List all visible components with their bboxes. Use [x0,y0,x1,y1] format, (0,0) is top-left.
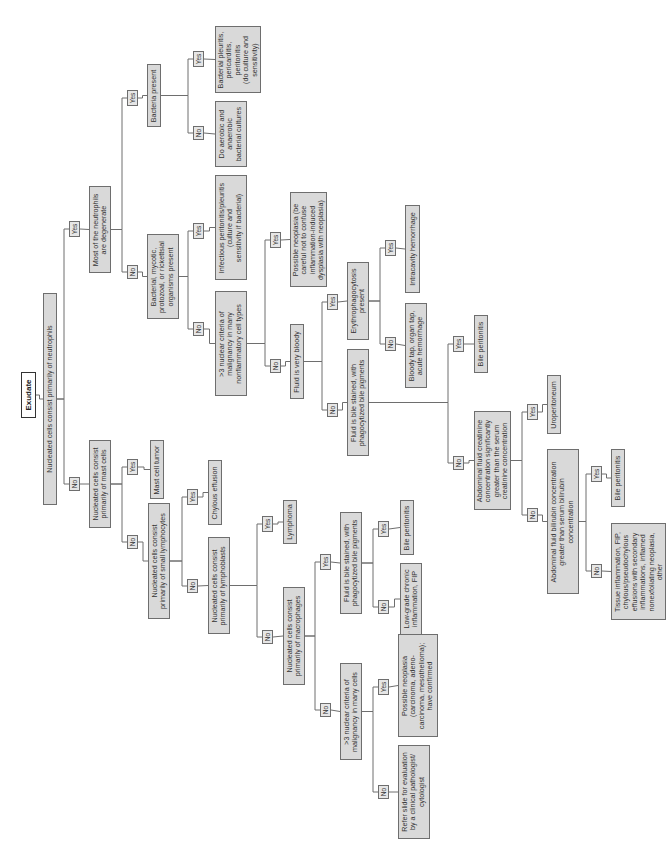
yes-label-y-erythro: Yes [385,240,396,256]
node-text: Yes [386,241,394,255]
node-text: Yes [128,91,136,105]
node-text: No [321,704,329,716]
decision-node-malig-nonfl: >3 nuclear criteria of malignancy in man… [215,291,247,396]
outcome-node-mast-tumor: Mast cell tumor [150,440,164,499]
node-text: Yes [328,295,336,309]
yes-label-y-malig2: Yes [378,679,389,695]
node-text: Chylous effusion [211,461,219,524]
node-text: Mast cell tumor [153,441,161,498]
decision-node-degenerate: Most of the neutrophils are degenerate [89,186,111,273]
no-label-n-degen: No [127,265,138,279]
node-text: Bloody tap, organ tap, acute hemorrhage [408,304,425,387]
yes-label-y-org: Yes [193,223,204,239]
yes-label-y-bile2: Yes [378,521,389,537]
node-text: No [194,127,202,139]
decision-node-bile-stained1: Fluid is bile stained, with phagocytized… [347,349,369,456]
connector-lines [0,0,669,845]
yes-label-y-bloody: Yes [327,294,338,310]
decision-node-bacteria: Bacteria present [147,64,161,127]
node-text: Low-grade chronic inflammation, FIP [403,564,420,634]
no-label-n-creat: No [527,508,538,522]
node-text: Tissue inflammation, FIP, chylous/pseudo… [613,524,663,619]
outcome-node-lymphoma: Lymphoma [283,500,297,544]
no-label-n-bile1: No [453,456,464,470]
outcome-node-tissue: Tissue inflammation, FIP, chylous/pseudo… [611,523,666,620]
node-text: Exudate [24,373,32,417]
no-label-n-erythro: No [385,337,396,351]
decision-node-creatinine: Abdominal fluid creatinine concentration… [474,411,511,510]
decision-node-small-lymph: Nucleated cells consist primarily of sma… [148,503,170,619]
node-text: Lymphoma [286,501,294,543]
yes-label-y-neut: Yes [69,221,80,237]
node-text: No [454,457,462,469]
node-text: Uroperitoneum [550,376,558,433]
node-text: No [271,360,279,372]
yes-label-y-bact: Yes [193,51,204,67]
outcome-node-bloody-tap: Bloody tap, organ tap, acute hemorrhage [405,303,427,388]
yes-label-y-small: Yes [187,489,198,505]
outcome-node-uroperit: Uroperitoneum [547,375,561,434]
no-label-n-malig2: No [378,785,389,799]
node-text: Intracavity hemorrhage [408,206,416,292]
node-text: Bile peritonitis [477,316,485,372]
decision-node-macrophages: Nucleated cells consist primarily of mac… [283,587,305,685]
node-text: Fluid is very bloody [293,325,301,398]
yes-label-y-mast: Yes [127,459,138,475]
node-text: No [194,323,202,335]
node-text: Nucleated cells consist primarily of lym… [211,538,228,633]
no-label-n-lymphob: No [262,630,273,644]
decision-node-bloody: Fluid is very bloody [290,324,304,399]
node-text: No [379,601,387,613]
node-text: Yes [454,337,462,351]
node-text: Yes [592,467,600,481]
node-text: Yes [128,460,136,474]
no-label-n-malig1: No [270,359,281,373]
no-label-n-neut: No [69,477,80,491]
outcome-node-poss-neo2: Possible neoplasia (carcinoma, adeno- ca… [398,634,438,737]
decision-node-neutrophils: Nucleated cells consist primarily of neu… [43,293,57,505]
node-text: Possible neoplasia (be careful not to co… [292,193,326,286]
outcome-node-bile-perit3: Bile peritonitis [400,500,414,555]
node-text: Refer slide for evaluation by a clinical… [401,746,426,838]
node-text: No [128,536,136,548]
node-text: Abdominal fluid bilirubin concentration … [550,450,575,593]
no-label-n-bili: No [591,564,602,578]
node-text: Infectious peritonitis/pleuritis (cultur… [218,176,243,279]
no-label-n-org: No [193,322,204,336]
no-label-n-bloody: No [327,403,338,417]
yes-label-y-malig1: Yes [270,232,281,248]
node-text: Do aerobic and anaerobic bacterial cultu… [218,102,243,166]
node-text: Yes [271,233,279,247]
node-text: No [128,266,136,278]
node-text: Abdominal fluid creatinine concentration… [476,412,510,509]
yes-label-y-bili: Yes [591,466,602,482]
node-text: No [328,404,336,416]
node-text: No [379,786,387,798]
no-label-n-macro: No [320,703,331,717]
node-text: Bile peritonitis [403,501,411,554]
node-text: Yes [528,405,536,419]
outcome-node-bile-perit1: Bile peritonitis [474,315,488,373]
node-text: Bacteria present [150,65,158,126]
node-text: Yes [263,517,271,531]
node-text: Fluid is bile stained, with phagocytized… [343,513,360,613]
node-text: No [70,478,78,490]
node-text: Possible neoplasia (carcinoma, adeno- ca… [401,635,435,736]
node-text: Nucleated cells consist primarily of neu… [46,294,54,504]
node-text: No [528,509,536,521]
node-text: Yes [70,222,78,236]
outcome-node-aerobic: Do aerobic and anaerobic bacterial cultu… [215,101,247,167]
no-label-n-bact: No [193,126,204,140]
node-text: Bile peritonitis [614,450,622,506]
node-text: No [386,338,394,350]
node-text: Nucleated cells consist primarily of sma… [151,504,168,618]
outcome-node-lowgrade: Low-grade chronic inflammation, FIP [400,563,422,635]
no-label-n-mast: No [127,535,138,549]
no-label-n-small: No [187,579,198,593]
outcome-node-bile-perit2: Bile peritonitis [611,449,625,507]
node-text: Fluid is bile stained, with phagocytized… [350,350,367,455]
yes-label-y-bile1: Yes [453,336,464,352]
node-text: Yes [379,680,387,694]
outcome-node-poss-neo1: Possible neoplasia (be careful not to co… [290,192,327,287]
outcome-node-bact-pleuritis: Bacterial pleuritis, pericarditis, perit… [215,26,261,93]
